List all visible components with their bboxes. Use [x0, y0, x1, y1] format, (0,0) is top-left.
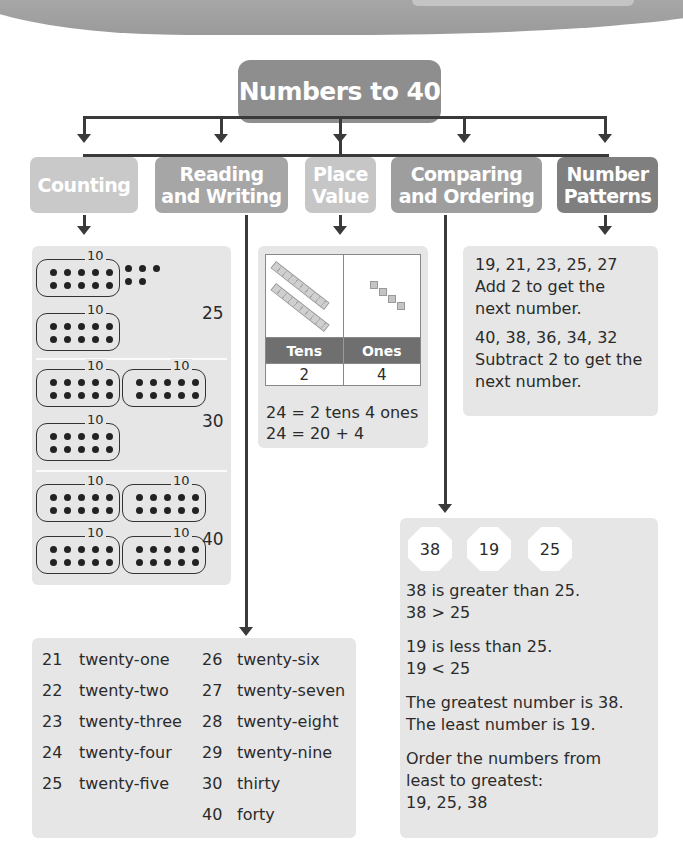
arrow-down-icon: [598, 134, 612, 143]
page-header-tab: [412, 0, 634, 6]
pattern-sequence: 40, 38, 36, 34, 32: [475, 327, 617, 349]
ten-frame: 10: [36, 484, 120, 522]
numeral: 29: [202, 743, 222, 762]
ones-header: Ones: [343, 338, 421, 363]
place-value-chart: Tens Ones 2 4: [265, 254, 421, 386]
ten-frame: 10: [122, 484, 206, 522]
comparison-text: 19 is less than 25.: [406, 636, 552, 658]
place-value-equation: 24 = 2 tens 4 ones: [266, 403, 418, 422]
number-word: twenty-two: [79, 681, 169, 700]
pattern-rule: Subtract 2 to get the: [475, 349, 642, 371]
ordering-result: 19, 25, 38: [406, 792, 487, 814]
connector-comparing: [444, 215, 447, 505]
number-word: twenty-four: [79, 743, 172, 762]
number-word: twenty-three: [79, 712, 182, 731]
comparing-ordering-panel: 38 19 25 38 is greater than 25. 38 > 25 …: [400, 518, 658, 838]
tens-header: Tens: [266, 343, 343, 359]
connector-drop: [339, 118, 342, 135]
numeral: 30: [202, 774, 222, 793]
ten-frame: 10: [122, 369, 206, 407]
ten-frame: 10: [122, 536, 206, 574]
number-octagon: 25: [528, 527, 572, 571]
number-word: twenty-six: [237, 650, 320, 669]
ones-cubes-image: [343, 255, 421, 337]
pattern-sequence: 19, 21, 23, 25, 27: [475, 254, 617, 276]
divider: [36, 358, 227, 360]
reading-writing-panel: 21 twenty-one 22 twenty-two 23 twenty-th…: [32, 638, 356, 838]
pattern-rule: next number.: [475, 298, 582, 320]
count-total: 40: [202, 529, 224, 549]
connector-drop: [83, 118, 86, 135]
arrow-down-icon: [457, 134, 471, 143]
arrow-down-icon: [333, 226, 347, 235]
ordering-instruction: least to greatest:: [406, 770, 543, 792]
comparison-symbol: 19 < 25: [406, 658, 470, 680]
tens-rods-image: [266, 255, 343, 337]
numeral: 40: [202, 805, 222, 824]
pattern-rule: Add 2 to get the: [475, 276, 605, 298]
comparison-symbol: 38 > 25: [406, 602, 470, 624]
number-word: thirty: [237, 774, 280, 793]
numeral: 27: [202, 681, 222, 700]
category-comparing-ordering: Comparing and Ordering: [391, 157, 542, 213]
number-word: twenty-nine: [237, 743, 332, 762]
number-word: twenty-five: [79, 774, 169, 793]
arrow-down-icon: [77, 134, 91, 143]
arrow-down-icon: [214, 134, 228, 143]
tens-value: 2: [266, 366, 343, 384]
arrow-down-icon: [239, 627, 253, 636]
pattern-rule: next number.: [475, 371, 582, 393]
ten-frame: 10: [36, 536, 120, 574]
numeral: 28: [202, 712, 222, 731]
number-octagon: 38: [408, 527, 452, 571]
numeral: 21: [42, 650, 62, 669]
concept-map-title: Numbers to 40: [238, 60, 441, 123]
connector-drop: [604, 118, 607, 135]
number-word: twenty-seven: [237, 681, 345, 700]
arrow-down-icon: [333, 134, 347, 143]
divider: [36, 470, 227, 472]
ten-frame: 10: [36, 369, 120, 407]
category-place-value: Place Value: [305, 157, 376, 213]
arrow-down-icon: [438, 504, 452, 513]
least-text: The least number is 19.: [406, 714, 595, 736]
numeral: 23: [42, 712, 62, 731]
connector-reading-writing: [245, 215, 248, 628]
number-octagon: 19: [467, 527, 511, 571]
ten-frame: 10: [36, 313, 120, 351]
connector-horizontal: [83, 116, 607, 119]
number-word: twenty-eight: [237, 712, 338, 731]
place-value-panel: Tens Ones 2 4 24 = 2 tens 4 ones 24 = 20…: [258, 246, 428, 448]
arrow-down-icon: [598, 226, 612, 235]
connector-drop: [463, 118, 466, 135]
numeral: 25: [42, 774, 62, 793]
greatest-text: The greatest number is 38.: [406, 692, 624, 714]
ten-frame: 10: [36, 259, 120, 297]
number-patterns-panel: 19, 21, 23, 25, 27 Add 2 to get the next…: [463, 246, 658, 416]
number-word: forty: [237, 805, 275, 824]
count-total: 30: [202, 411, 224, 431]
ordering-instruction: Order the numbers from: [406, 748, 601, 770]
ten-frame: 10: [36, 423, 120, 461]
category-reading-writing: Reading and Writing: [155, 157, 288, 213]
number-word: twenty-one: [79, 650, 170, 669]
connector-drop: [220, 118, 223, 135]
count-total: 25: [202, 303, 224, 323]
numeral: 24: [42, 743, 62, 762]
ones-value: 4: [343, 364, 421, 385]
category-counting: Counting: [30, 157, 138, 213]
counting-panel: 10 10 25 10 10 10 30 10 10 10 10 40: [32, 246, 231, 585]
place-value-equation: 24 = 20 + 4: [266, 424, 364, 443]
category-number-patterns: Number Patterns: [557, 157, 658, 213]
numeral: 26: [202, 650, 222, 669]
numeral: 22: [42, 681, 62, 700]
comparison-text: 38 is greater than 25.: [406, 580, 580, 602]
arrow-down-icon: [77, 226, 91, 235]
